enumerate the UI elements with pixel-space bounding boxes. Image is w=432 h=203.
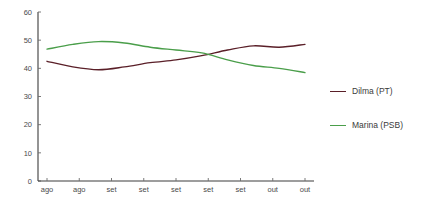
x-tick-label: set: [106, 185, 117, 194]
y-tick-label: 30: [24, 92, 32, 101]
y-tick-label: 40: [24, 64, 32, 73]
legend-item-dilma: Dilma (PT): [330, 74, 430, 108]
x-tick-label: out: [300, 185, 311, 194]
x-tick-label: set: [139, 185, 150, 194]
x-tick-label: set: [235, 185, 246, 194]
legend-swatch-marina: [330, 125, 346, 126]
x-tick-label: set: [171, 185, 182, 194]
x-tick-label: ago: [41, 185, 54, 194]
x-tick-label: out: [268, 185, 279, 194]
x-tick-label: set: [203, 185, 214, 194]
y-tick-label: 10: [24, 149, 32, 158]
x-axis: agoagosetsetsetsetsetoutout: [38, 178, 314, 194]
series-line-dilma-pt: [47, 44, 305, 69]
line-chart: 0102030405060 agoagosetsetsetsetsetoutou…: [0, 0, 432, 203]
series-lines: [47, 42, 305, 73]
y-tick-label: 20: [24, 120, 32, 129]
x-tick-label: ago: [73, 185, 86, 194]
y-tick-label: 0: [28, 177, 32, 186]
y-tick-label: 50: [24, 36, 32, 45]
chart-legend: Dilma (PT) Marina (PSB): [330, 74, 430, 142]
legend-label-dilma: Dilma (PT): [352, 86, 393, 96]
legend-swatch-dilma: [330, 91, 346, 92]
y-tick-label: 60: [24, 8, 32, 17]
legend-label-marina: Marina (PSB): [352, 120, 403, 130]
y-axis: 0102030405060: [24, 8, 41, 186]
legend-item-marina: Marina (PSB): [330, 108, 430, 142]
